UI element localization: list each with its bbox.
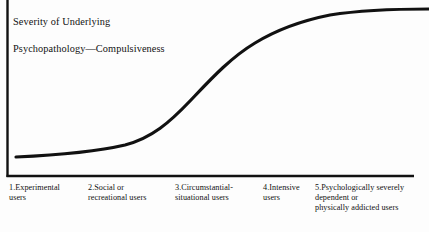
figure-container: Severity of Underlying Psychopathology—C…: [0, 0, 429, 232]
x-axis-label-circumstantial-situational-users: 3.Circumstantial- situational users: [175, 183, 255, 203]
x-axis-label-intensive-users: 4.Intensive users: [263, 183, 315, 203]
x-label-1-line1: 1.Experimental: [9, 183, 87, 193]
x-axis-label-psychologically-dependent-users: 5.Psychologically severely dependent or …: [315, 183, 427, 214]
x-label-5-line1: 5.Psychologically severely: [315, 183, 427, 193]
x-label-4-line2: users: [263, 193, 315, 203]
x-label-5-line3: physically addicted users: [315, 203, 427, 213]
y-axis-title: Severity of Underlying Psychopathology—C…: [13, 1, 243, 70]
x-axis-label-group: 1.Experimental users 2.Social or recreat…: [0, 183, 429, 232]
x-label-1-line2: users: [9, 193, 87, 203]
y-axis-title-line1: Severity of Underlying: [13, 15, 243, 29]
x-label-2-line2: recreational users: [88, 193, 170, 203]
y-axis-title-line2: Psychopathology—Compulsiveness: [13, 42, 243, 56]
x-label-5-line2: dependent or: [315, 193, 427, 203]
x-axis-label-social-recreational-users: 2.Social or recreational users: [88, 183, 170, 203]
x-label-4-line1: 4.Intensive: [263, 183, 315, 193]
x-label-2-line1: 2.Social or: [88, 183, 170, 193]
x-label-3-line2: situational users: [175, 193, 255, 203]
x-label-3-line1: 3.Circumstantial-: [175, 183, 255, 193]
x-axis-label-experimental-users: 1.Experimental users: [9, 183, 87, 203]
